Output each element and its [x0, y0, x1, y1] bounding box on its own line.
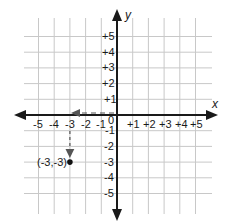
y-tick-label: +1	[104, 93, 117, 105]
coordinate-plane: y x -5 -4 -3 -2 -1 +1 +2 +3 +4 +5 0 +5 +…	[0, 0, 233, 223]
y-axis-down-arrow-icon	[112, 209, 122, 221]
x-axis-right-arrow-icon	[206, 110, 218, 120]
y-tick-label: +5	[102, 30, 115, 42]
y-tick-label: -5	[104, 187, 114, 199]
y-tick-label: +4	[102, 46, 115, 58]
x-tick-label: +4	[175, 118, 188, 130]
y-tick-label: -3	[104, 156, 114, 168]
x-axis-left-arrow-icon	[14, 110, 26, 120]
x-tick-label: -5	[33, 118, 43, 130]
x-tick-label: -4	[49, 118, 59, 130]
x-tick-label: +1	[127, 118, 140, 130]
x-tick-label: +2	[143, 118, 156, 130]
x-tick-label: +3	[159, 118, 172, 130]
y-tick-label: -4	[104, 171, 114, 183]
y-tick-label: +3	[102, 61, 115, 73]
x-tick-label: -3	[65, 118, 75, 130]
y-axis-label: y	[124, 8, 132, 22]
point-label: (-3,-3)	[37, 156, 67, 168]
y-axis-up-arrow-icon	[112, 9, 122, 21]
x-axis-label: x	[211, 97, 219, 111]
x-tick-label: -2	[81, 118, 91, 130]
y-tick-label: -2	[104, 140, 114, 152]
x-tick-label: +5	[190, 118, 203, 130]
plotted-point	[67, 159, 73, 165]
y-tick-labels-positive: +5 +4 +3 +2 +1	[102, 30, 117, 105]
y-tick-label: +2	[102, 77, 115, 89]
y-tick-labels-negative: -1 -2 -3 -4 -5	[104, 124, 115, 199]
y-tick-label: -1	[105, 124, 115, 136]
